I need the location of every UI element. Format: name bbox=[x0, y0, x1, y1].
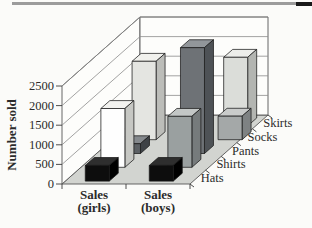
series-label-shirts: Shirts bbox=[216, 157, 245, 171]
series-label-skirts: Skirts bbox=[263, 116, 292, 130]
category-label-line: (girls) bbox=[77, 200, 110, 215]
bar-side-face bbox=[125, 101, 134, 168]
bar-front-face bbox=[85, 165, 109, 181]
bar-front-face bbox=[218, 116, 242, 140]
bar-girls-Hats bbox=[85, 158, 118, 182]
bar-side-face bbox=[192, 108, 201, 167]
y-tick-label: 2500 bbox=[29, 79, 54, 93]
bar-side-face bbox=[204, 40, 213, 154]
y-tick-label: 1500 bbox=[29, 118, 54, 132]
bar-girls-Socks bbox=[132, 53, 165, 139]
y-tick-label: 1000 bbox=[29, 138, 54, 152]
y-tick-label: 500 bbox=[35, 157, 54, 171]
x-axis: Sales(girls)Sales(boys) bbox=[62, 184, 190, 215]
bar-boys-Hats bbox=[149, 158, 182, 182]
series-label-hats: Hats bbox=[201, 171, 224, 185]
bar-boys-Socks bbox=[218, 108, 251, 139]
y-tick-label: 0 bbox=[48, 177, 54, 191]
scanned-page: 05001000150020002500Number soldSales(gir… bbox=[0, 0, 312, 228]
bar-side-face bbox=[156, 53, 165, 139]
y-axis: 05001000150020002500 bbox=[29, 79, 62, 191]
y-tick-label: 2000 bbox=[29, 99, 54, 113]
y-axis-title: Number sold bbox=[4, 98, 19, 170]
3d-bar-chart: 05001000150020002500Number soldSales(gir… bbox=[0, 0, 312, 228]
series-label-pants: Pants bbox=[232, 144, 259, 158]
series-label-socks: Socks bbox=[248, 130, 278, 144]
bar-front-face bbox=[132, 61, 156, 139]
bar-front-face bbox=[149, 165, 173, 181]
category-label-line: (boys) bbox=[141, 200, 175, 215]
category-label-boys: Sales(boys) bbox=[141, 187, 175, 215]
category-label-girls: Sales(girls) bbox=[77, 187, 110, 215]
